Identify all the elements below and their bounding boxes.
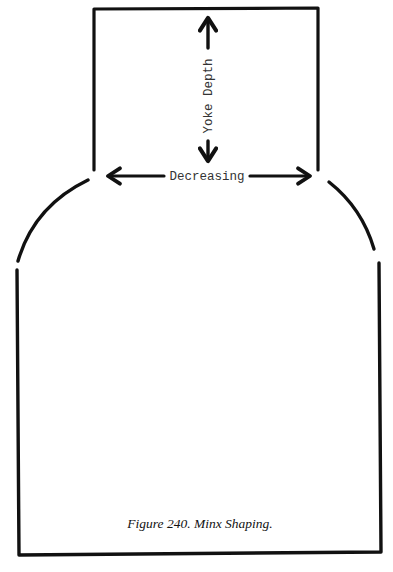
body-outline <box>17 263 381 555</box>
yoke-depth-label: Yoke Depth <box>202 58 216 133</box>
minx-shaping-diagram: Yoke Depth Decreasing Figure 240. Minx S… <box>0 0 393 572</box>
decreasing-label: Decreasing <box>169 170 244 184</box>
figure-caption: Figure 240. Minx Shaping. <box>126 516 272 531</box>
shoulder-right-arc <box>329 182 374 249</box>
shoulder-left-arc <box>18 180 88 261</box>
